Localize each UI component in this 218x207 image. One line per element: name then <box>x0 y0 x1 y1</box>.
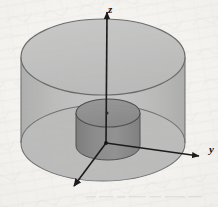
z-axis-line <box>106 12 107 143</box>
inner-cylinder <box>76 99 140 160</box>
outer-cylinder-top-ellipse <box>21 19 185 95</box>
y-axis-label: y <box>207 143 214 155</box>
bleed-through-text <box>86 196 202 197</box>
origin-point <box>104 141 108 145</box>
figure-canvas: z y <box>0 0 218 207</box>
z-axis-label: z <box>107 3 113 15</box>
z-axis-inner-top-marker <box>106 112 109 115</box>
cylinders-scene: z y <box>0 0 218 207</box>
